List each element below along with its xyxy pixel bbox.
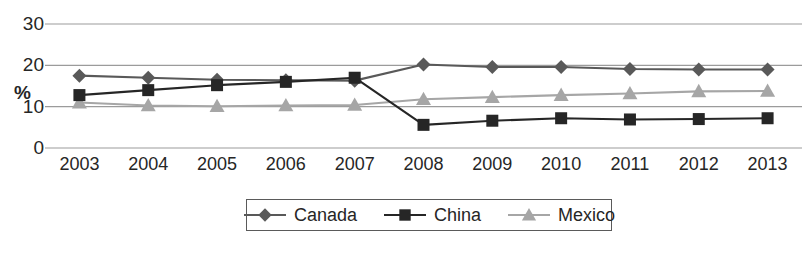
legend-label: Mexico (558, 205, 615, 226)
y-tick-20: 20 (0, 55, 44, 74)
marker-diamond (141, 71, 155, 85)
marker-square (418, 119, 430, 131)
marker-square (555, 112, 567, 124)
marker-square (624, 113, 636, 125)
y-tick-30: 30 (0, 14, 44, 33)
legend-marker-diamond-icon (243, 206, 287, 224)
marker-square (142, 84, 154, 96)
marker-diamond (417, 58, 431, 72)
marker-square (349, 72, 361, 84)
marker-diamond (72, 69, 86, 83)
marker-square (486, 115, 498, 127)
legend: CanadaChinaMexico (246, 199, 612, 231)
marker-diamond (485, 60, 499, 74)
marker-square (211, 79, 223, 91)
legend-label: China (434, 205, 481, 226)
marker-square (762, 112, 774, 124)
marker-square (399, 209, 410, 220)
legend-marker-square-icon (383, 206, 427, 224)
line-chart: % 3020100 200320042005200620072008200920… (0, 0, 811, 253)
legend-entry-canada[interactable]: Canada (243, 205, 357, 226)
marker-diamond (761, 62, 775, 76)
legend-entry-china[interactable]: China (383, 205, 481, 226)
marker-diamond (692, 62, 706, 76)
marker-square (693, 113, 705, 125)
legend-label: Canada (294, 205, 357, 226)
series-canada (72, 58, 774, 88)
marker-square (280, 76, 292, 88)
marker-diamond (258, 208, 271, 221)
plot-area (45, 0, 802, 160)
y-tick-10: 10 (0, 97, 44, 116)
legend-entry-mexico[interactable]: Mexico (507, 205, 615, 226)
legend-marker-triangle-icon (507, 206, 551, 224)
marker-square (73, 89, 85, 101)
marker-diamond (623, 62, 637, 76)
series-canvas (45, 0, 802, 160)
y-tick-0: 0 (0, 138, 44, 157)
marker-diamond (554, 60, 568, 74)
